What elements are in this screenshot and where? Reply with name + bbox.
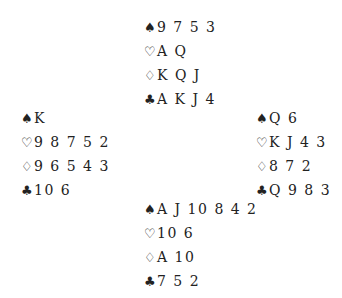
- east-clubs-cards: Q 9 8 3: [269, 182, 331, 198]
- heart-icon: ♡: [21, 131, 34, 155]
- club-icon: ♣: [21, 179, 34, 203]
- east-spades-cards: Q 6: [269, 110, 298, 126]
- club-icon: ♣: [144, 270, 157, 294]
- south-clubs-cards: 7 5 2: [157, 273, 200, 289]
- heart-icon: ♡: [144, 40, 157, 64]
- west-spades-row: ♠K: [21, 106, 110, 130]
- diamond-icon: ♢: [21, 155, 34, 179]
- diamond-icon: ♢: [144, 64, 157, 88]
- heart-icon: ♡: [144, 222, 157, 246]
- north-spades-cards: 9 7 5 3: [157, 19, 216, 35]
- north-spades-row: ♠9 7 5 3: [144, 15, 216, 39]
- east-spades-row: ♠Q 6: [256, 106, 331, 130]
- west-hearts-cards: 9 8 7 5 2: [34, 134, 110, 150]
- south-spades-row: ♠A J 10 8 4 2: [144, 197, 258, 221]
- south-diamonds-cards: A 10: [157, 249, 195, 265]
- spade-icon: ♠: [256, 107, 269, 131]
- north-hearts-row: ♡A Q: [144, 39, 216, 63]
- spade-icon: ♠: [144, 198, 157, 222]
- west-hand: ♠K ♡9 8 7 5 2 ♢9 6 5 4 3 ♣10 6: [21, 106, 110, 202]
- north-diamonds-cards: K Q J: [157, 67, 201, 83]
- east-hearts-row: ♡K J 4 3: [256, 130, 331, 154]
- diamond-icon: ♢: [256, 155, 269, 179]
- east-diamonds-cards: 8 7 2: [269, 158, 312, 174]
- west-clubs-cards: 10 6: [34, 182, 71, 198]
- spade-icon: ♠: [144, 16, 157, 40]
- west-hearts-row: ♡9 8 7 5 2: [21, 130, 110, 154]
- north-clubs-row: ♣A K J 4: [144, 87, 216, 111]
- east-diamonds-row: ♢8 7 2: [256, 154, 331, 178]
- north-clubs-cards: A K J 4: [157, 91, 216, 107]
- south-hearts-row: ♡10 6: [144, 221, 258, 245]
- east-hearts-cards: K J 4 3: [269, 134, 327, 150]
- south-spades-cards: A J 10 8 4 2: [157, 201, 258, 217]
- spade-icon: ♠: [21, 107, 34, 131]
- west-clubs-row: ♣10 6: [21, 178, 110, 202]
- east-clubs-row: ♣Q 9 8 3: [256, 178, 331, 202]
- south-hand: ♠A J 10 8 4 2 ♡10 6 ♢A 10 ♣7 5 2: [144, 197, 258, 293]
- north-hearts-cards: A Q: [157, 43, 188, 59]
- heart-icon: ♡: [256, 131, 269, 155]
- club-icon: ♣: [256, 179, 269, 203]
- south-clubs-row: ♣7 5 2: [144, 269, 258, 293]
- east-hand: ♠Q 6 ♡K J 4 3 ♢8 7 2 ♣Q 9 8 3: [256, 106, 331, 202]
- west-diamonds-cards: 9 6 5 4 3: [34, 158, 110, 174]
- north-diamonds-row: ♢K Q J: [144, 63, 216, 87]
- club-icon: ♣: [144, 88, 157, 112]
- diamond-icon: ♢: [144, 246, 157, 270]
- north-hand: ♠9 7 5 3 ♡A Q ♢K Q J ♣A K J 4: [144, 15, 216, 111]
- south-diamonds-row: ♢A 10: [144, 245, 258, 269]
- west-spades-cards: K: [34, 110, 46, 126]
- south-hearts-cards: 10 6: [157, 225, 194, 241]
- west-diamonds-row: ♢9 6 5 4 3: [21, 154, 110, 178]
